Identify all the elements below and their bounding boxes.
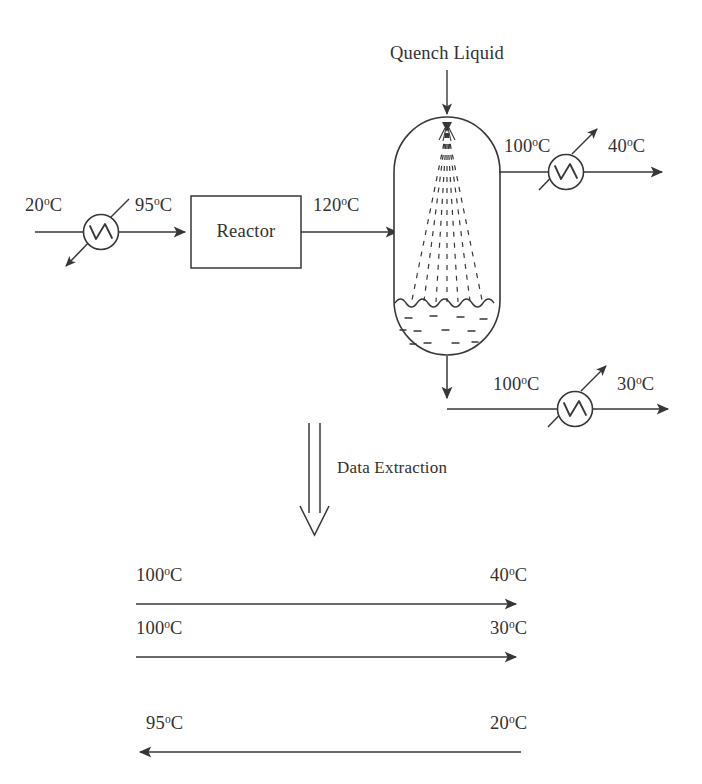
extracted-stream-3-supply-temp: 20oC — [490, 714, 527, 733]
data-extraction-arrow — [300, 423, 329, 535]
extracted-stream-2-supply-temp: 100oC — [136, 619, 183, 638]
heat-exchanger-liquid-cooler — [548, 366, 606, 427]
data-extraction-label: Data Extraction — [337, 459, 447, 476]
label-vapor-outlet-temp: 100oC — [504, 137, 551, 156]
extracted-stream-2-target-temp: 30oC — [490, 619, 527, 638]
extracted-stream-1-target-temp: 40oC — [490, 566, 527, 585]
extracted-stream-1-supply-temp: 100oC — [136, 566, 183, 585]
extracted-stream-3-target-temp: 95oC — [146, 714, 183, 733]
label-liquid-outlet-temp: 100oC — [493, 375, 540, 394]
diagram-canvas — [0, 0, 702, 784]
label-feed-inlet-temp: 20oC — [25, 196, 62, 215]
label-vapor-cooled-temp: 40oC — [608, 137, 645, 156]
process-flow-diagram: 20oC 95oC Reactor 120oC Quench Liquid 10… — [0, 0, 702, 784]
quench-liquid-label: Quench Liquid — [390, 44, 504, 63]
label-feed-preheated-temp: 95oC — [135, 196, 172, 215]
label-liquid-cooled-temp: 30oC — [617, 375, 654, 394]
label-reactor-outlet-temp: 120oC — [313, 196, 360, 215]
reactor-label: Reactor — [217, 222, 276, 241]
